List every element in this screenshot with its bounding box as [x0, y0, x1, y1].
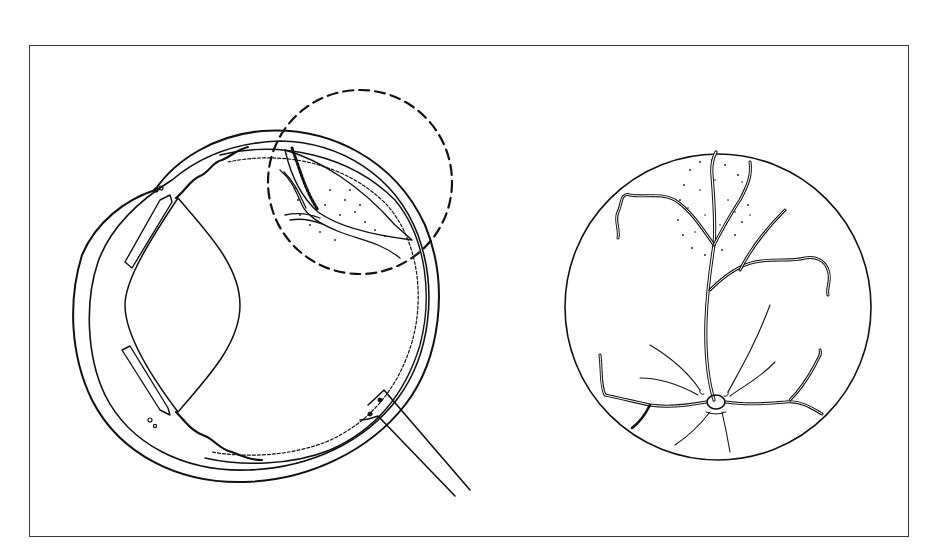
vessel-upper-left [617, 195, 714, 245]
eye-illustration [0, 0, 936, 555]
iris-lower [122, 346, 170, 415]
vessel-upper-right [714, 162, 751, 245]
retina-layer [205, 149, 426, 463]
eye-cross-section [73, 90, 470, 496]
vessel-lower-left [600, 355, 706, 406]
fundus-view [565, 152, 871, 460]
retinal-lesion [280, 148, 412, 258]
optic-nerve [368, 390, 470, 490]
iris-upper [125, 195, 172, 268]
vessel-right [710, 258, 829, 296]
sclera-inner [89, 141, 429, 470]
optic-disc [707, 395, 725, 409]
